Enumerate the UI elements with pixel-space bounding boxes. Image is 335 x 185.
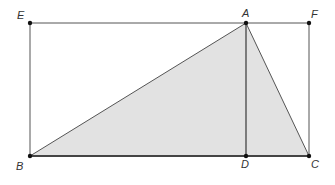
point-e xyxy=(28,21,32,25)
label-d: D xyxy=(241,158,249,170)
point-f xyxy=(307,21,311,25)
label-e: E xyxy=(17,9,25,21)
point-b xyxy=(28,154,32,158)
label-a: A xyxy=(241,7,249,19)
point-a xyxy=(244,21,248,25)
geometry-diagram: E A F B D C xyxy=(0,0,335,185)
triangle-abc-fill xyxy=(30,23,309,156)
label-c: C xyxy=(311,158,319,170)
label-b: B xyxy=(16,160,23,172)
label-f: F xyxy=(311,8,319,20)
